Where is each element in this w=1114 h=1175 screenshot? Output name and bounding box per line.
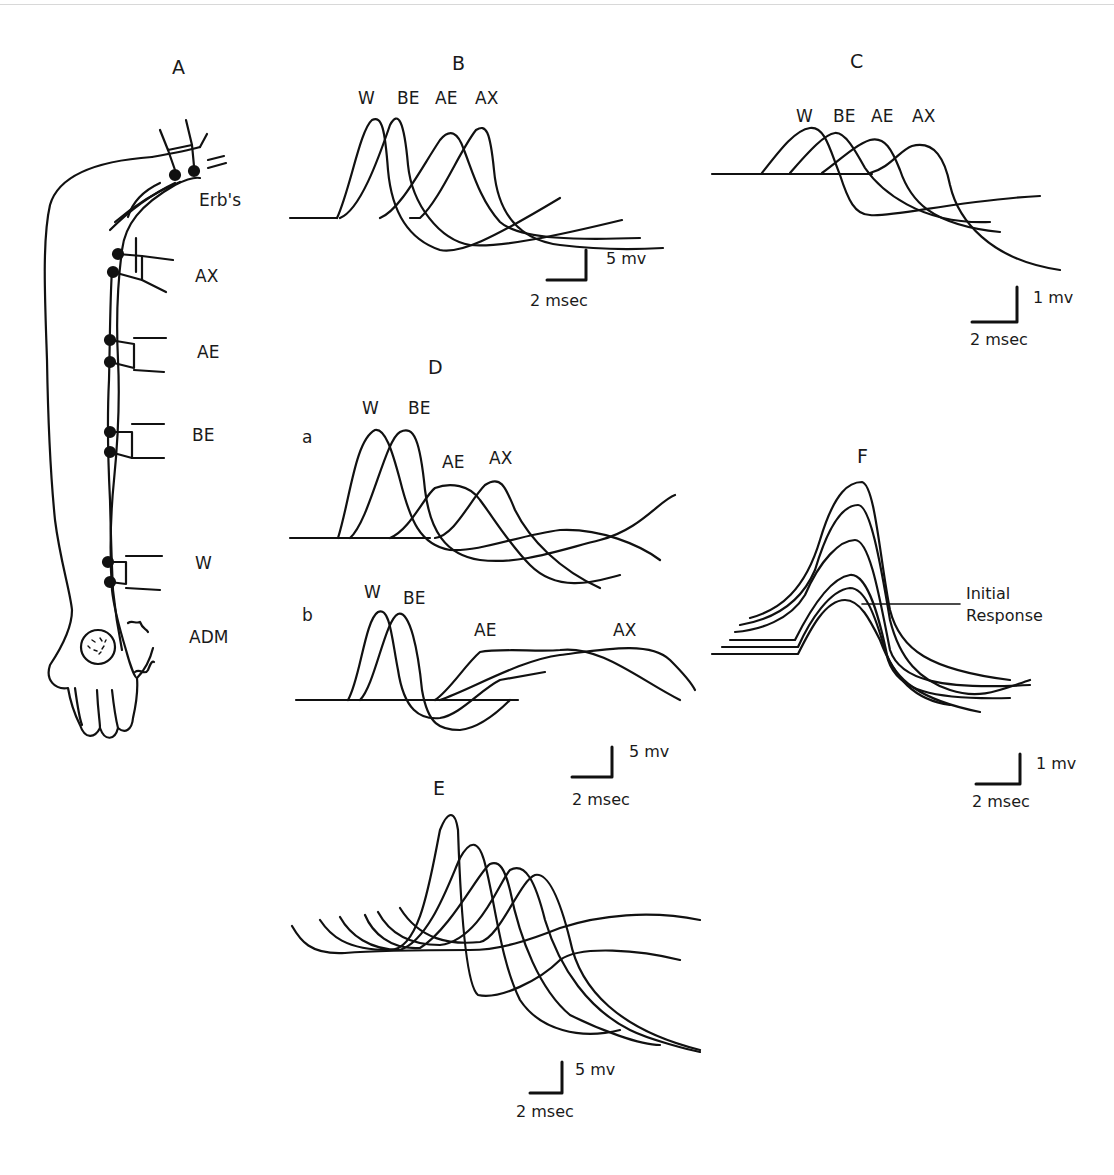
panel-d-b-label-be: BE: [403, 588, 425, 608]
panel-f-annotation-line1: Initial: [966, 584, 1010, 603]
panel-c-label-ae: AE: [871, 106, 893, 126]
panel-f-annotation-line2: Response: [966, 606, 1043, 625]
panel-b-traces: [290, 118, 663, 250]
panel-b-label-ae: AE: [435, 88, 457, 108]
panel-e-time-scale: 2 msec: [516, 1102, 574, 1121]
panel-d-b-label-w: W: [364, 582, 381, 602]
panel-a-title: A: [172, 56, 185, 78]
panel-b-title: B: [452, 52, 465, 74]
panel-c-label-w: W: [796, 106, 813, 126]
panel-b-label-w: W: [358, 88, 375, 108]
panel-d-a-label-w: W: [362, 398, 379, 418]
figure-caption-fragment: [0, 1162, 1114, 1175]
site-ax-label: AX: [195, 266, 218, 286]
panel-d-b-label: b: [302, 605, 313, 625]
panel-e-traces: [292, 815, 700, 1052]
panel-d-voltage-scale: 5 mv: [629, 742, 669, 761]
panel-c-traces: [712, 128, 1060, 270]
panel-c-label-ax: AX: [912, 106, 935, 126]
site-w-label: W: [195, 553, 212, 573]
panel-b-label-be: BE: [397, 88, 419, 108]
panel-d-a-label-ae: AE: [442, 452, 464, 472]
site-erbs-label: Erb's: [199, 190, 241, 210]
site-be-label: BE: [192, 425, 214, 445]
panel-c-voltage-scale: 1 mv: [1033, 288, 1073, 307]
panel-d-time-scale: 2 msec: [572, 790, 630, 809]
panel-c-title: C: [850, 50, 863, 72]
panel-e-voltage-scale: 5 mv: [575, 1060, 615, 1079]
panel-d-title: D: [428, 356, 443, 378]
panel-d-a-traces: [290, 430, 675, 588]
panel-c-time-scale: 2 msec: [970, 330, 1028, 349]
panel-f-time-scale: 2 msec: [972, 792, 1030, 811]
site-ae-label: AE: [197, 342, 219, 362]
scale-bars: [530, 250, 1020, 1093]
panel-e-title: E: [433, 777, 445, 799]
panel-f-title: F: [857, 445, 868, 467]
panel-d-a-label-be: BE: [408, 398, 430, 418]
site-adm-label: ADM: [189, 627, 228, 647]
nerve-conduction-figure: [0, 0, 1114, 1175]
panel-b-label-ax: AX: [475, 88, 498, 108]
panel-c-label-be: BE: [833, 106, 855, 126]
panel-b-time-scale: 2 msec: [530, 291, 588, 310]
panel-f-voltage-scale: 1 mv: [1036, 754, 1076, 773]
panel-d-a-label: a: [302, 427, 312, 447]
panel-d-a-label-ax: AX: [489, 448, 512, 468]
panel-b-voltage-scale: 5 mv: [606, 249, 646, 268]
panel-d-b-label-ax: AX: [613, 620, 636, 640]
panel-d-b-label-ae: AE: [474, 620, 496, 640]
